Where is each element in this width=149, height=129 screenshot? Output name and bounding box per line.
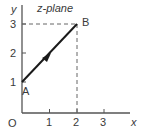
origin-label: O: [8, 117, 17, 129]
point-a-label: A: [22, 85, 30, 97]
x-tick-label-2: 2: [73, 116, 79, 128]
y-tick-label-2: 2: [10, 47, 16, 59]
plane-title: z-plane: [36, 2, 73, 14]
x-axis-label: x: [130, 116, 137, 128]
x-tick-label-3: 3: [100, 116, 106, 128]
y-tick-label-1: 1: [10, 76, 16, 88]
y-tick-label-3: 3: [10, 18, 16, 30]
z-plane-diagram: y z-plane 3 2 1 O 1 2 3 x A B: [0, 0, 149, 129]
point-b-label: B: [82, 16, 89, 28]
y-axis-label: y: [10, 3, 18, 15]
segment-a-b: [22, 24, 77, 82]
x-tick-label-1: 1: [46, 116, 52, 128]
